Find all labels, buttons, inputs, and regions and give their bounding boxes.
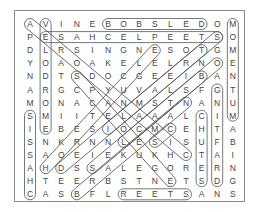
grid-cell[interactable]: L (117, 136, 131, 148)
grid-cell[interactable]: A (70, 31, 84, 43)
grid-cell[interactable]: A (23, 84, 37, 96)
grid-cell[interactable]: I (85, 149, 99, 161)
grid-cell[interactable]: I (85, 44, 99, 56)
grid-cell[interactable]: E (148, 188, 162, 200)
grid-cell[interactable]: U (117, 84, 131, 96)
grid-cell[interactable]: D (85, 70, 99, 82)
grid-cell[interactable]: N (117, 97, 131, 109)
grid-cell[interactable]: O (210, 57, 224, 69)
grid-cell[interactable]: A (101, 162, 115, 174)
grid-cell[interactable]: U (226, 97, 240, 109)
grid-cell[interactable]: O (117, 123, 131, 135)
grid-cell[interactable]: O (101, 70, 115, 82)
grid-cell[interactable]: E (101, 149, 115, 161)
grid-cell[interactable]: R (39, 84, 53, 96)
grid-cell[interactable]: M (132, 97, 146, 109)
grid-cell[interactable]: B (132, 18, 146, 30)
grid-cell[interactable]: A (70, 97, 84, 109)
grid-cell[interactable]: E (226, 57, 240, 69)
grid-cell[interactable]: H (39, 162, 53, 174)
grid-cell[interactable]: T (195, 149, 209, 161)
grid-cell[interactable]: K (117, 149, 131, 161)
grid-cell[interactable]: E (132, 136, 146, 148)
grid-cell[interactable]: E (148, 70, 162, 82)
grid-cell[interactable]: S (70, 70, 84, 82)
grid-cell[interactable]: E (39, 31, 53, 43)
grid-cell[interactable]: C (195, 110, 209, 122)
grid-cell[interactable]: T (195, 31, 209, 43)
grid-cell[interactable]: S (23, 110, 37, 122)
grid-cell[interactable]: D (210, 175, 224, 187)
grid-cell[interactable]: N (70, 18, 84, 30)
grid-cell[interactable]: P (148, 31, 162, 43)
grid-cell[interactable]: C (179, 149, 193, 161)
grid-cell[interactable]: A (210, 149, 224, 161)
grid-cell[interactable]: A (226, 123, 240, 135)
grid-cell[interactable]: S (148, 18, 162, 30)
grid-cell[interactable]: A (39, 149, 53, 161)
grid-cell[interactable]: R (70, 136, 84, 148)
grid-cell[interactable]: I (54, 110, 68, 122)
grid-cell[interactable]: U (132, 149, 146, 161)
grid-cell[interactable]: A (23, 18, 37, 30)
grid-cell[interactable]: I (210, 110, 224, 122)
grid-cell[interactable]: P (85, 84, 99, 96)
grid-cell[interactable]: O (117, 18, 131, 30)
grid-cell[interactable]: E (39, 123, 53, 135)
grid-cell[interactable]: K (101, 57, 115, 69)
grid-cell[interactable]: M (39, 110, 53, 122)
grid-cell[interactable]: M (226, 18, 240, 30)
grid-cell[interactable]: O (70, 57, 84, 69)
grid-cell[interactable]: S (163, 44, 177, 56)
grid-cell[interactable]: E (163, 31, 177, 43)
grid-cell[interactable]: L (117, 162, 131, 174)
grid-cell[interactable]: T (85, 110, 99, 122)
grid-cell[interactable]: R (54, 44, 68, 56)
grid-cell[interactable]: C (70, 84, 84, 96)
grid-cell[interactable]: I (163, 136, 177, 148)
grid-cell[interactable]: T (210, 123, 224, 135)
grid-cell[interactable]: B (101, 175, 115, 187)
grid-cell[interactable]: E (179, 18, 193, 30)
grid-cell[interactable]: R (210, 162, 224, 174)
grid-cell[interactable]: C (132, 123, 146, 135)
grid-cell[interactable]: N (195, 57, 209, 69)
grid-cell[interactable]: N (101, 136, 115, 148)
grid-cell[interactable]: O (163, 162, 177, 174)
grid-cell[interactable]: S (117, 175, 131, 187)
grid-cell[interactable]: M (226, 110, 240, 122)
grid-cell[interactable]: L (163, 84, 177, 96)
grid-cell[interactable]: E (195, 162, 209, 174)
grid-cell[interactable]: E (163, 70, 177, 82)
grid-cell[interactable]: F (85, 188, 99, 200)
grid-cell[interactable]: N (101, 44, 115, 56)
grid-cell[interactable]: R (179, 162, 193, 174)
grid-cell[interactable]: G (210, 44, 224, 56)
grid-cell[interactable]: Y (23, 57, 37, 69)
grid-cell[interactable]: B (101, 18, 115, 30)
grid-cell[interactable]: S (148, 97, 162, 109)
grid-cell[interactable]: T (226, 84, 240, 96)
grid-cell[interactable]: G (148, 162, 162, 174)
grid-cell[interactable]: P (23, 31, 37, 43)
grid-cell[interactable]: M (148, 123, 162, 135)
grid-cell[interactable]: O (179, 44, 193, 56)
grid-cell[interactable]: F (195, 84, 209, 96)
grid-cell[interactable]: T (179, 175, 193, 187)
grid-cell[interactable]: R (85, 175, 99, 187)
grid-cell[interactable]: S (23, 136, 37, 148)
grid-cell[interactable]: B (70, 188, 84, 200)
grid-cell[interactable]: L (39, 44, 53, 56)
grid-cell[interactable]: A (132, 110, 146, 122)
grid-cell[interactable]: N (85, 136, 99, 148)
grid-cell[interactable]: E (70, 123, 84, 135)
grid-cell[interactable]: E (85, 18, 99, 30)
grid-cell[interactable]: S (148, 136, 162, 148)
grid-cell[interactable]: L (117, 110, 131, 122)
grid-cell[interactable]: N (226, 70, 240, 82)
grid-cell[interactable]: I (54, 18, 68, 30)
grid-cell[interactable]: N (179, 97, 193, 109)
grid-cell[interactable]: T (132, 175, 146, 187)
grid-cell[interactable]: D (195, 18, 209, 30)
grid-cell[interactable]: G (226, 175, 240, 187)
